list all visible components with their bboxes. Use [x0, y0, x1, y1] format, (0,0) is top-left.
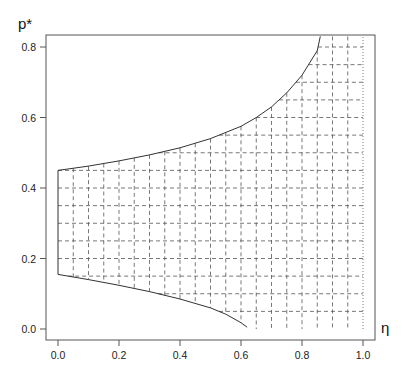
region-plot: 0.00.20.40.60.81.0 0.00.20.40.60.8 p* η [0, 0, 406, 385]
x-axis-title: η [381, 319, 389, 336]
x-axis: 0.00.20.40.60.81.0 [51, 340, 371, 361]
x-tick-label: 0.6 [234, 349, 249, 361]
upper-boundary-line [58, 36, 320, 170]
y-axis-title: p* [18, 15, 32, 32]
x-tick-label: 0.4 [173, 349, 188, 361]
y-tick-label: 0.2 [21, 253, 36, 265]
y-tick-label: 0.8 [21, 41, 36, 53]
lower-boundary-line [58, 274, 247, 327]
x-tick-label: 1.0 [356, 349, 371, 361]
y-tick-label: 0.0 [21, 323, 36, 335]
y-tick-label: 0.6 [21, 112, 36, 124]
y-tick-label: 0.4 [21, 182, 36, 194]
x-tick-label: 0.2 [112, 349, 127, 361]
x-tick-label: 0.8 [295, 349, 310, 361]
hatch-grid [58, 36, 363, 329]
x-tick-label: 0.0 [51, 349, 66, 361]
y-axis: 0.00.20.40.60.8 [21, 41, 46, 335]
